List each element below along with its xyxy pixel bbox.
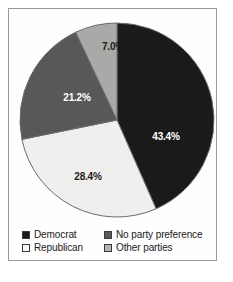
legend-swatch-no-party-preference (104, 231, 112, 239)
chart-legend: Democrat No party preference Republican … (22, 228, 210, 254)
pie-chart-figure: 43.4%28.4%21.2%7.0% Democrat No party pr… (0, 0, 233, 282)
legend-swatch-other-parties (104, 244, 112, 252)
legend-item-democrat[interactable]: Democrat (22, 228, 104, 241)
pie-slice-value-democrat: 43.4% (152, 131, 180, 142)
legend-label-no-party-preference: No party preference (116, 229, 202, 240)
legend-swatch-democrat (22, 231, 30, 239)
legend-item-republican[interactable]: Republican (22, 241, 104, 254)
pie-svg: 43.4%28.4%21.2%7.0% (9, 9, 216, 260)
legend-swatch-republican (22, 244, 30, 252)
legend-label-democrat: Democrat (34, 229, 77, 240)
pie-slices-group (20, 23, 214, 217)
legend-item-other-parties[interactable]: Other parties (104, 241, 210, 254)
pie-plot-area: 43.4%28.4%21.2%7.0% (9, 9, 216, 260)
pie-slice-value-no-party-preference: 21.2% (63, 92, 91, 103)
legend-label-other-parties: Other parties (116, 242, 173, 253)
pie-slice-value-republican: 28.4% (74, 171, 102, 182)
legend-label-republican: Republican (34, 242, 83, 253)
pie-slice-value-other-parties: 7.0% (102, 41, 124, 52)
legend-item-no-party-preference[interactable]: No party preference (104, 228, 210, 241)
